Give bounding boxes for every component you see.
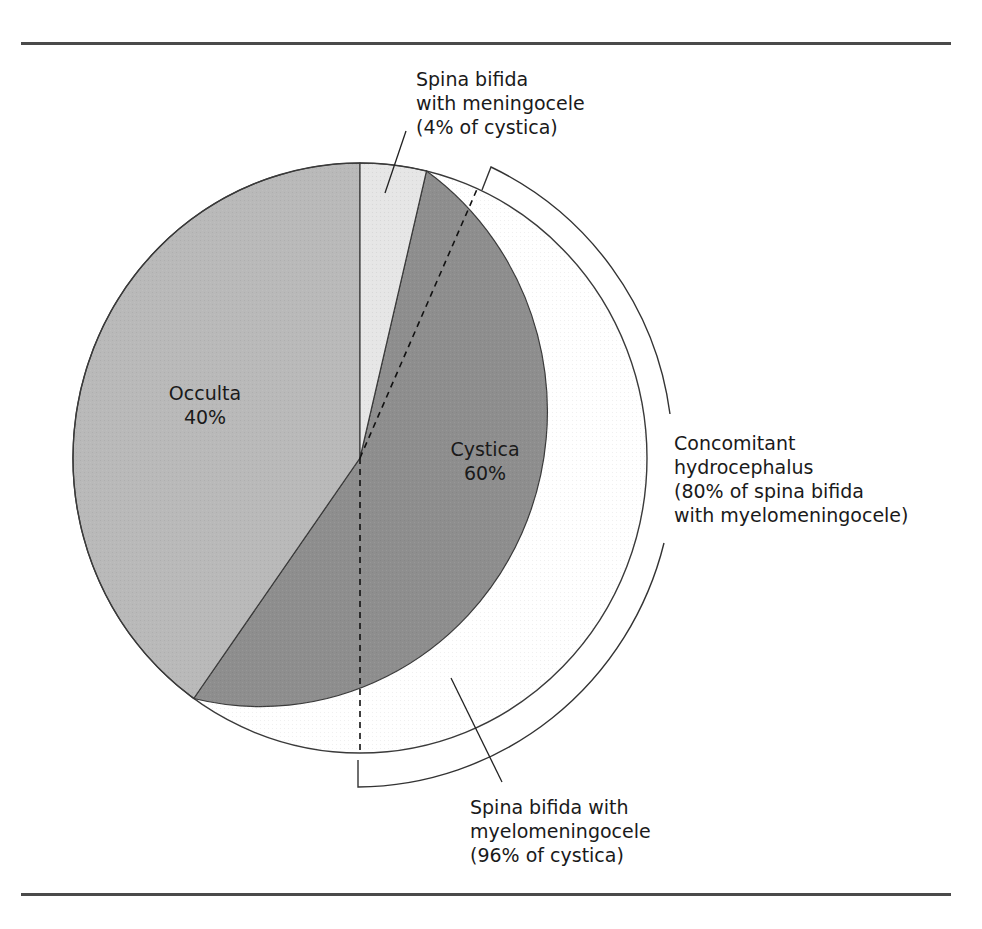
label-cystica-name: Cystica [440,437,530,461]
label-meningocele-line3: (4% of cystica) [416,115,585,139]
label-myelomeningocele-line3: (96% of cystica) [470,843,651,867]
label-hydrocephalus-line4: with myelomeningocele) [674,503,908,527]
label-occulta: Occulta 40% [160,381,250,429]
label-meningocele-line1: Spina bifida [416,67,585,91]
label-myelomeningocele: Spina bifida with myelomeningocele (96% … [470,795,651,867]
label-occulta-name: Occulta [160,381,250,405]
label-occulta-value: 40% [160,405,250,429]
label-hydrocephalus-line2: hydrocephalus [674,455,908,479]
label-myelomeningocele-line2: myelomeningocele [470,819,651,843]
label-hydrocephalus: Concomitant hydrocephalus (80% of spina … [674,431,908,527]
label-meningocele: Spina bifida with meningocele (4% of cys… [416,67,585,139]
label-myelomeningocele-line1: Spina bifida with [470,795,651,819]
label-hydrocephalus-line1: Concomitant [674,431,908,455]
label-cystica-value: 60% [440,461,530,485]
label-meningocele-line2: with meningocele [416,91,585,115]
label-cystica: Cystica 60% [440,437,530,485]
label-hydrocephalus-line3: (80% of spina bifida [674,479,908,503]
